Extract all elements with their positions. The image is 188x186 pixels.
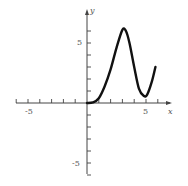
y-tick-label-5: 5	[77, 38, 82, 47]
x-axis-arrow-icon	[166, 101, 172, 105]
y-axis-arrow-icon	[85, 9, 89, 15]
x-tick-label-5: 5	[143, 107, 148, 116]
y-axis-label: y	[89, 6, 95, 15]
function-graph: x y -5 5 5 -5	[0, 0, 188, 186]
y-tick-label-neg5: -5	[72, 159, 80, 168]
function-curve	[87, 28, 155, 103]
x-tick-label-neg5: -5	[25, 107, 33, 116]
x-axis-label: x	[168, 107, 173, 116]
